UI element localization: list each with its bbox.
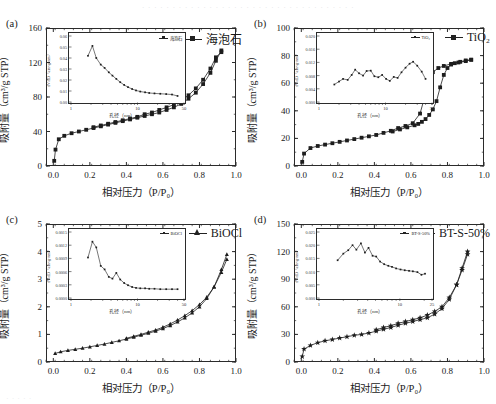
panel-b-xtick: 0.8 xyxy=(442,170,453,180)
inset-xtick: 10 xyxy=(135,302,140,307)
figure-canvas: · · · · · · · · · · · · · · · · · · · · … xyxy=(0,0,496,404)
panel-b-ytick: 0 xyxy=(260,161,290,171)
panel-d-ytick: 120 xyxy=(260,247,290,257)
inset-ytick: 0.004 xyxy=(296,86,315,91)
panel-c-ytick: 1 xyxy=(12,329,42,339)
panel-b-ytick: 20 xyxy=(260,133,290,143)
panel-d-inset-canvas xyxy=(317,229,435,301)
panel-c-xtick: 0.8 xyxy=(194,366,205,376)
panel-d-ytick: 60 xyxy=(260,302,290,312)
legend-label: BT-S-50% xyxy=(439,226,490,241)
inset-xtick: 50 xyxy=(182,302,187,307)
inset-xlabel: 孔径（nm） xyxy=(357,307,383,314)
inset-xtick: 10 xyxy=(398,302,403,307)
inset-ytick: 0.00 xyxy=(48,100,67,105)
panel-b: (b) 吸附量（cm³/g STP） 相对压力（P/P₀） 0.00.20.40… xyxy=(248,12,496,208)
legend-label: 海泡石 xyxy=(206,30,242,48)
inset-legend[interactable]: BiOCl xyxy=(160,231,182,236)
panel-d-inset-frame: 0.0000.0050.0100.0150.0200.02511025孔径（nm… xyxy=(316,228,434,300)
inset-legend-marker-icon xyxy=(400,233,409,234)
legend-label: BiOCl xyxy=(211,226,242,241)
panel-a-xtick: 0.6 xyxy=(157,170,168,180)
panel-b-ytick: 60 xyxy=(260,78,290,88)
panel-b-ytick: 80 xyxy=(260,51,290,61)
panel-a-xtick: 0.0 xyxy=(48,170,59,180)
panel-c-xtick: 0.4 xyxy=(121,366,132,376)
panel-b-inset-canvas xyxy=(317,33,435,105)
panel-c-xtick: 1.0 xyxy=(230,366,241,376)
panel-d-xtick: 0.2 xyxy=(332,366,343,376)
inset-ytick: 0.0012 xyxy=(48,243,67,248)
panel-c-ytick: 0 xyxy=(12,357,42,367)
panel-a-ytick: 0 xyxy=(12,161,42,171)
panel-c-inset-canvas xyxy=(69,229,187,301)
panel-b-xtick: 0.4 xyxy=(369,170,380,180)
inset-legend[interactable]: BT-S-50% xyxy=(400,231,430,236)
panel-a-ytick: 160 xyxy=(12,23,42,33)
panel-b-ytick: 100 xyxy=(260,23,290,33)
panel-d-ytick: 90 xyxy=(260,274,290,284)
inset-legend[interactable]: 海泡石 xyxy=(159,35,182,41)
panel-c-ytick: 4 xyxy=(12,247,42,257)
inset-xtick: 1 xyxy=(318,106,320,111)
inset-legend[interactable]: TiO₂ xyxy=(411,35,430,40)
panel-c-ytick: 2 xyxy=(12,302,42,312)
panel-d-ytick: 0 xyxy=(260,357,290,367)
panel-b-xtick: 0.6 xyxy=(405,170,416,180)
inset-ytick: 0.020 xyxy=(296,34,315,39)
panel-a-xtick: 0.4 xyxy=(121,170,132,180)
inset-legend-marker-icon xyxy=(160,233,169,234)
inset-xlabel: 孔径（nm） xyxy=(109,307,135,314)
inset-ytick: 0.06 xyxy=(48,34,67,39)
panel-c: (c) 吸附量（cm³/g STP） 相对压力（P/P₀） 0.00.20.40… xyxy=(0,208,248,404)
panel-b-inset-frame: 0.0000.0040.0080.0120.0160.02011050孔径（nm… xyxy=(316,32,434,104)
inset-ylabel: dV/dD（cm³/g·nm） xyxy=(45,248,51,283)
legend-marker-icon xyxy=(445,37,463,38)
inset-ytick: 0.016 xyxy=(296,47,315,52)
panel-d-xtick: 0.8 xyxy=(442,366,453,376)
panel-d-xtick: 0.6 xyxy=(405,366,416,376)
panel-d: (d) 吸附量（cm³/g STP） 相对压力（P/P₀） 0.00.20.40… xyxy=(248,208,496,404)
panel-a-xtick: 0.8 xyxy=(194,170,205,180)
inset-ytick: 0.000 xyxy=(296,296,315,301)
panel-a-xtick: 0.2 xyxy=(84,170,95,180)
panel-d-xtick: 1.0 xyxy=(478,366,489,376)
panel-d-ytick: 30 xyxy=(260,329,290,339)
legend-label: TiO₂ xyxy=(467,30,490,45)
inset-xtick: 10 xyxy=(383,106,388,111)
inset-legend-marker-icon xyxy=(159,38,168,39)
inset-ytick: 0.0000 xyxy=(48,296,67,301)
inset-legend-label: TiO₂ xyxy=(422,35,430,40)
panel-c-xtick: 0.6 xyxy=(157,366,168,376)
inset-legend-label: BiOCl xyxy=(171,231,182,236)
inset-ylabel: dV/dD（cm³/g·nm） xyxy=(293,52,299,87)
inset-xtick: 10 xyxy=(135,106,140,111)
panel-a-ytick: 120 xyxy=(12,58,42,68)
panel-d-ytick: 150 xyxy=(260,219,290,229)
panel-d-xtick: 0.0 xyxy=(296,366,307,376)
panel-a-xtick: 1.0 xyxy=(230,170,241,180)
inset-legend-label: 海泡石 xyxy=(170,35,182,41)
panel-c-inset-frame: 0.00000.00030.00060.00090.00120.00151105… xyxy=(68,228,186,300)
inset-ytick: 0.0015 xyxy=(48,230,67,235)
panel-a-inset-canvas xyxy=(69,33,187,105)
inset-ytick: 0.000 xyxy=(296,100,315,105)
panel-grid: (a) 吸附量（cm³/g STP） 相对压力（P/P₀） 0.00.20.40… xyxy=(0,12,496,404)
inset-ylabel: dV/dD（cm³/g·nm） xyxy=(293,248,299,283)
panel-a-ytick: 80 xyxy=(12,92,42,102)
panel-a-inset-frame: 0.000.010.020.030.040.050.0611050孔径（nm）d… xyxy=(68,32,186,104)
panel-d-xtick: 0.4 xyxy=(369,366,380,376)
panel-b-xtick: 1.0 xyxy=(478,170,489,180)
inset-xlabel: 孔径（nm） xyxy=(109,111,135,118)
panel-b-legend[interactable]: TiO₂ xyxy=(445,30,490,45)
inset-xtick: 50 xyxy=(182,106,187,111)
panel-c-legend[interactable]: BiOCl xyxy=(189,226,242,241)
inset-ytick: 0.005 xyxy=(296,282,315,287)
panel-a-legend[interactable]: 海泡石 xyxy=(184,30,242,48)
legend-marker-icon xyxy=(189,233,207,234)
inset-ytick: 0.0003 xyxy=(48,282,67,287)
panel-c-ytick: 5 xyxy=(12,219,42,229)
inset-legend-marker-icon xyxy=(411,37,420,38)
inset-xtick: 1 xyxy=(318,302,320,307)
inset-legend-label: BT-S-50% xyxy=(411,231,430,236)
